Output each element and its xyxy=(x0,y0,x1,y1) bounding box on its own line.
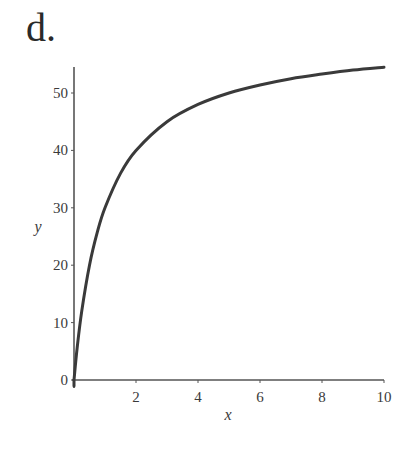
x-tick-label: 2 xyxy=(132,389,140,405)
y-tick-label: 0 xyxy=(61,372,69,388)
y-tick-label: 50 xyxy=(53,85,68,101)
x-axis-label: x xyxy=(223,406,231,423)
x-tick-label: 4 xyxy=(194,389,202,405)
y-tick-label: 30 xyxy=(53,200,68,216)
line-chart: 01020304050246810 x y xyxy=(0,0,414,449)
y-axis-label: y xyxy=(32,218,42,236)
y-tick-label: 10 xyxy=(53,315,68,331)
axes xyxy=(71,67,384,388)
y-tick-label: 20 xyxy=(53,257,68,273)
x-tick-label: 10 xyxy=(377,389,392,405)
data-curve xyxy=(74,67,384,386)
x-tick-label: 8 xyxy=(318,389,326,405)
x-tick-label: 6 xyxy=(256,389,264,405)
tick-labels: 01020304050246810 xyxy=(53,85,392,405)
y-tick-label: 40 xyxy=(53,142,68,158)
